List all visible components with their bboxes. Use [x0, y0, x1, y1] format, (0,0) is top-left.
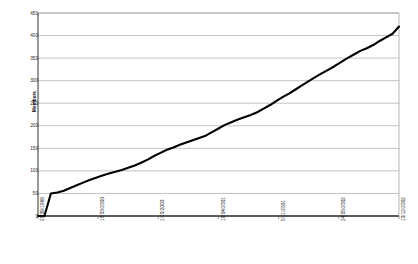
x-tick-label: 10/12/2002 — [401, 197, 406, 221]
x-tick-label: 15/03/2000 — [100, 197, 105, 221]
members-growth-chart: Members 050100150200250300350400450 28/0… — [0, 0, 418, 264]
gridlines — [38, 13, 399, 216]
chart-plot-area — [0, 0, 418, 264]
members-data-series — [38, 27, 399, 216]
plot-frame — [38, 13, 399, 216]
x-tick-label: 19/04/2001 — [221, 197, 226, 221]
x-tick-label: 1/10/2000 — [160, 200, 165, 221]
x-tick-label: 5/11/2001 — [281, 200, 286, 221]
x-tick-label: 24/05/2002 — [341, 197, 346, 221]
x-tick-label: 28/09/1999 — [40, 197, 45, 221]
